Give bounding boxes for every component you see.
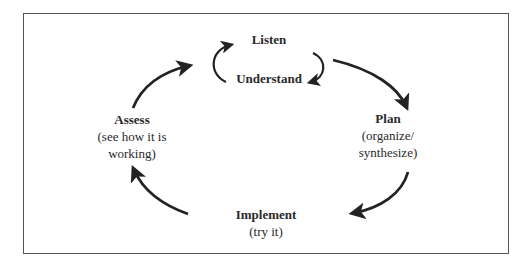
arrow-assess-to-listen [133,66,188,108]
node-implement-subtitle-1: (try it) [236,223,297,240]
node-listen: Listen [252,31,287,48]
node-implement-title: Implement [236,206,297,223]
arrow-plan-to-implement [354,172,408,213]
arrow-understand-to-listen [214,45,230,82]
node-assess-title: Assess [98,111,167,128]
node-plan-title: Plan [359,110,417,127]
arrow-listen-to-understand [311,53,323,82]
node-understand: Understand [236,70,302,87]
node-plan-subtitle-2: synthesize) [359,144,417,161]
node-assess: Assess (see how it is working) [98,111,167,162]
node-assess-subtitle-1: (see how it is [98,128,167,145]
node-plan: Plan (organize/ synthesize) [359,110,417,161]
node-listen-title: Listen [252,31,287,48]
arrow-listen-to-plan [333,60,406,106]
arrow-implement-to-assess [134,170,188,214]
node-understand-title: Understand [236,70,302,87]
node-implement: Implement (try it) [236,206,297,240]
node-plan-subtitle-1: (organize/ [359,127,417,144]
node-assess-subtitle-2: working) [98,145,167,162]
